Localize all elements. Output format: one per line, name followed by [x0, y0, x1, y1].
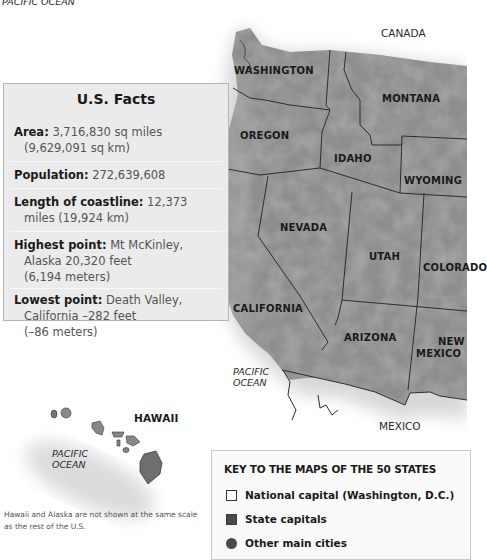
fact-continuation: (–86 meters) [14, 324, 222, 340]
fact-highest-point: Highest point: Mt McKinley, Alaska 20,32… [14, 237, 222, 285]
ocean-label-hawaii: PACIFIC OCEAN [52, 448, 88, 470]
square-filled-icon [226, 514, 237, 525]
state-label-nevada: NEVADA [280, 222, 327, 233]
fact-value: 272,639,608 [92, 168, 165, 182]
ocean-label-mainland: PACIFIC OCEAN [233, 366, 269, 388]
fact-label: Lowest point: [14, 293, 102, 307]
key-item-state-capitals: State capitals [226, 513, 327, 525]
fact-value: 3,716,830 sq miles [52, 125, 162, 139]
fact-label: Population: [14, 168, 89, 182]
state-label-oregon: OREGON [240, 130, 289, 141]
state-label-washington: WASHINGTON [234, 65, 314, 76]
fact-label: Length of coastline: [14, 195, 143, 209]
country-label-canada: CANADA [381, 27, 426, 39]
divider [10, 288, 222, 289]
state-label-hawaii: HAWAII [134, 412, 179, 424]
fact-lowest-point: Lowest point: Death Valley, California –… [14, 292, 222, 340]
state-label-utah: UTAH [369, 251, 400, 262]
key-title: KEY TO THE MAPS OF THE 50 STATES [224, 463, 436, 475]
key-item-label: State capitals [245, 513, 327, 525]
fact-continuation: Alaska 20,320 feet [14, 253, 222, 269]
fact-area: Area: 3,716,830 sq miles (9,629,091 sq k… [14, 124, 222, 156]
state-label-wyoming: WYOMING [404, 175, 462, 186]
fact-continuation: California –282 feet [14, 308, 222, 324]
fact-value: 12,373 [147, 195, 187, 209]
top-ocean-label: PACIFIC OCEAN [2, 0, 75, 7]
ocean-label-line2: OCEAN [233, 377, 269, 388]
circle-icon [226, 538, 237, 549]
key-item-other-cities: Other main cities [226, 537, 347, 549]
fact-label: Area: [14, 125, 49, 139]
state-label-idaho: IDAHO [334, 153, 372, 164]
fact-coastline: Length of coastline: 12,373 miles (19,92… [14, 194, 222, 226]
state-label-california: CALIFORNIA [233, 303, 303, 314]
country-label-mexico: MEXICO [379, 420, 421, 432]
fact-continuation: (6,194 meters) [14, 269, 222, 285]
ocean-label-line2: OCEAN [52, 459, 88, 470]
facts-title: U.S. Facts [4, 91, 228, 107]
map-key-panel: KEY TO THE MAPS OF THE 50 STATES Nationa… [211, 450, 471, 560]
state-label-new-mexico-line2: MEXICO [416, 348, 461, 359]
divider [10, 161, 222, 162]
key-item-national-capital: National capital (Washington, D.C.) [226, 489, 454, 501]
fact-value: Death Valley, [106, 293, 182, 307]
square-outline-icon [226, 490, 237, 501]
key-item-label: National capital (Washington, D.C.) [245, 489, 454, 501]
state-label-new-mexico-line1: NEW [438, 336, 465, 347]
fact-value: Mt McKinley, [110, 238, 183, 252]
fact-population: Population: 272,639,608 [14, 167, 222, 183]
divider [10, 188, 222, 189]
divider [10, 231, 222, 232]
key-item-label: Other main cities [245, 537, 347, 549]
ocean-label-line1: PACIFIC [233, 366, 269, 377]
scale-note: Hawaii and Alaska are not shown at the s… [4, 509, 204, 533]
fact-continuation: miles (19,924 km) [14, 210, 222, 226]
us-facts-panel: U.S. Facts Area: 3,716,830 sq miles (9,6… [3, 83, 229, 321]
state-label-montana: MONTANA [382, 93, 440, 104]
fact-label: Highest point: [14, 238, 107, 252]
ocean-label-line1: PACIFIC [52, 448, 88, 459]
state-label-colorado: COLORADO [423, 262, 487, 273]
state-label-arizona: ARIZONA [344, 332, 396, 343]
fact-continuation: (9,629,091 sq km) [14, 140, 222, 156]
